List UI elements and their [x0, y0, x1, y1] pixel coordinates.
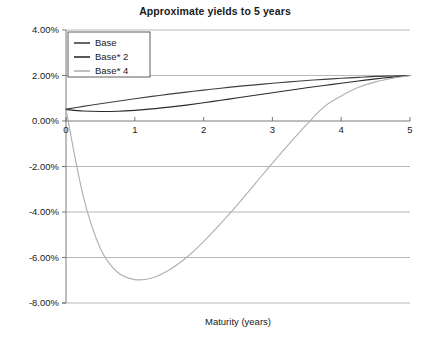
x-tick-label: 1 — [132, 124, 137, 135]
y-tick-label: 0.00% — [32, 115, 59, 126]
y-tick-label: -2.00% — [29, 161, 60, 172]
chart-plot-area: 4.00%2.00%0.00%-2.00%-4.00%-6.00%-8.00% … — [0, 0, 430, 340]
x-axis: 012345 — [62, 117, 413, 303]
data-series — [66, 76, 410, 280]
y-tick-label: -8.00% — [29, 297, 60, 308]
series-line-3 — [66, 76, 410, 280]
legend-label-1: Base — [95, 37, 117, 48]
y-axis: 4.00%2.00%0.00%-2.00%-4.00%-6.00%-8.00% — [29, 24, 66, 308]
x-axis-title: Maturity (years) — [205, 316, 271, 327]
series-line-2 — [66, 76, 410, 112]
chart-legend: BaseBase* 2Base* 4 — [68, 32, 150, 77]
legend-label-2: Base* 2 — [95, 51, 128, 62]
y-tick-label: -4.00% — [29, 206, 60, 217]
x-tick-label: 4 — [339, 124, 344, 135]
x-tick-label: 2 — [201, 124, 206, 135]
chart-container: Approximate yields to 5 years 4.00%2.00%… — [0, 0, 430, 340]
x-tick-label: 3 — [270, 124, 275, 135]
y-tick-label: 4.00% — [32, 24, 59, 35]
x-tick-label: 0 — [63, 124, 68, 135]
y-tick-label: 2.00% — [32, 70, 59, 81]
legend-label-3: Base* 4 — [95, 65, 128, 76]
y-tick-label: -6.00% — [29, 252, 60, 263]
x-tick-label: 5 — [407, 124, 412, 135]
